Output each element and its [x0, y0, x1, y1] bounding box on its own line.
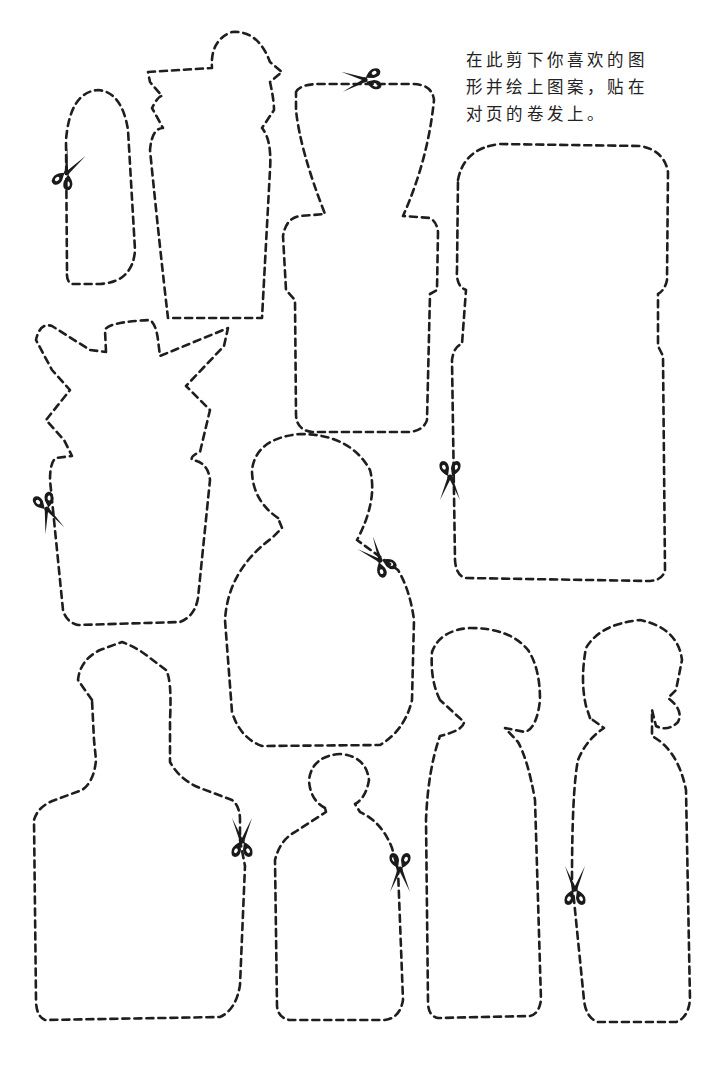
shape-profile-figure-left[interactable] [426, 628, 541, 1018]
shape-hourglass-block[interactable] [283, 84, 438, 432]
scissors-icon [555, 866, 595, 906]
shape-profile-figure-right[interactable] [572, 620, 690, 1022]
scissors-icon [222, 818, 262, 858]
shape-snowman-figure[interactable] [225, 434, 414, 746]
scissors-icon [380, 852, 420, 892]
shape-large-rounded-panel[interactable] [452, 144, 668, 581]
instruction-line-3: 对页的卷发上。 [466, 101, 686, 128]
shape-star-top-vase[interactable] [36, 320, 228, 625]
instruction-line-2: 形并绘上图案，贴在 [466, 74, 686, 101]
scissors-icon [340, 58, 383, 101]
shape-bust-silhouette[interactable] [34, 642, 245, 1020]
cutout-page: 在此剪下你喜欢的图 形并绘上图案，贴在 对页的卷发上。 [0, 0, 723, 1076]
instruction-text: 在此剪下你喜欢的图 形并绘上图案，贴在 对页的卷发上。 [466, 47, 686, 128]
scissors-icon [430, 460, 470, 500]
shape-bottle-with-knob[interactable] [148, 32, 282, 318]
cutout-shapes [0, 0, 723, 1076]
instruction-line-1: 在此剪下你喜欢的图 [466, 47, 686, 74]
